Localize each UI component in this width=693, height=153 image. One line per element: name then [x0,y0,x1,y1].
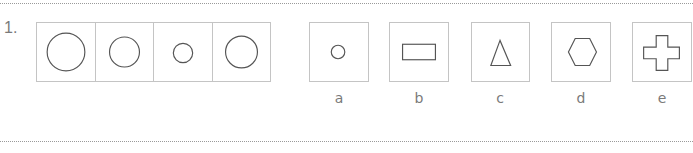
option-b-label: b [389,90,449,106]
rectangle-icon [390,23,448,81]
circle-icon [310,23,368,81]
option-c-box[interactable] [471,22,530,82]
triangle-icon [472,23,529,81]
option-d-label: d [551,90,611,106]
sequence-box-3 [153,22,213,82]
sequence-box-1 [36,22,96,82]
large-circle-icon [37,23,95,81]
option-a-label: a [309,90,369,106]
sequence-box-2 [95,22,154,82]
medium-circle-icon [96,23,153,81]
small-circle-icon [154,23,212,81]
option-e-label: e [632,90,692,106]
cross-icon [633,23,691,81]
option-b-box[interactable] [389,22,449,82]
option-c-label: c [470,90,530,106]
bottom-dotted-rule [0,141,693,142]
medium-large-circle-icon [213,23,270,81]
top-dotted-rule [0,3,693,4]
option-a-box[interactable] [309,22,369,82]
sequence-box-4 [212,22,271,82]
question-number: 1. [4,19,17,37]
option-e-box[interactable] [632,22,692,82]
hexagon-icon [552,23,610,81]
option-d-box[interactable] [551,22,611,82]
